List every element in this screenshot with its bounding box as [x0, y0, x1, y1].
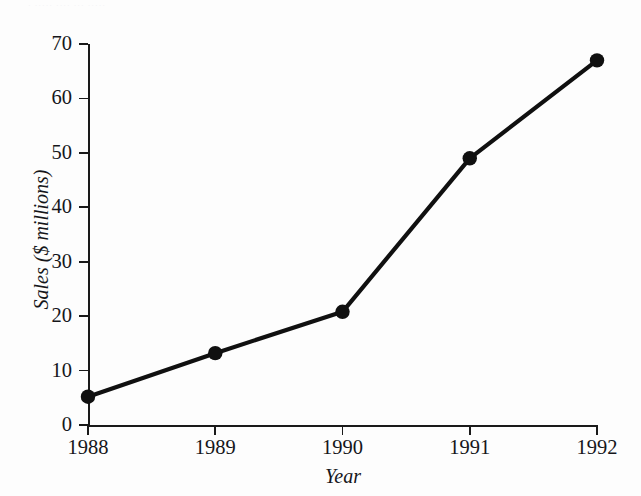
y-axis-title: Sales ($ millions)	[30, 115, 53, 365]
plot-area	[0, 0, 641, 496]
line-chart-figure: · ····· ···· ··· ····· 010203040506070 1…	[0, 0, 641, 496]
data-point-marker	[335, 305, 349, 319]
data-point-marker	[208, 346, 222, 360]
data-point-marker	[81, 390, 95, 404]
x-axis-title: Year	[88, 465, 598, 488]
data-markers	[81, 53, 604, 404]
data-line	[88, 60, 597, 396]
data-point-marker	[590, 53, 604, 67]
data-point-marker	[463, 151, 477, 165]
